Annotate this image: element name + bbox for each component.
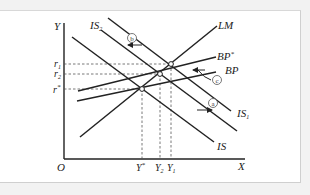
svg-text:r*: r* [53,83,61,95]
lm-label: LM [217,19,234,31]
equilibrium-point-1 [169,62,174,67]
equilibrium-point-2 [158,72,163,77]
is2-label: IS2 [89,19,102,32]
equilibrium-point-star [140,87,145,92]
is1-label: IS1 [236,107,249,120]
origin-label: O [57,161,65,173]
lm-curve [80,26,217,137]
bp-label: BP [225,64,239,76]
y-axis-label: Y [54,20,62,32]
marker-b: b [130,35,134,43]
shift-arrows [128,45,212,110]
dashed-guides [64,64,171,159]
marker-c: c [215,77,218,85]
svg-text:Y1: Y1 [167,162,176,174]
x-axis-label: X [237,160,246,172]
bp-star-label: BP* [217,50,234,62]
svg-text:Y2: Y2 [155,162,164,174]
x-tick-labels: Y* Y2 Y1 [136,161,176,174]
svg-text:Y*: Y* [136,161,146,173]
is-label: IS [216,140,227,152]
y-tick-labels: r1 r2 r* [53,58,61,95]
axes [64,23,245,159]
is-lm-bp-diagram: b a c Y O X r1 r2 r* Y* Y2 Y1 LM BP* BP … [0,0,310,195]
